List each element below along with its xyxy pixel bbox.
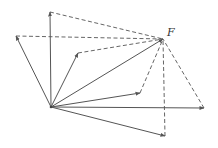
construction-lines [16, 12, 204, 136]
vector-upper-left [16, 36, 51, 107]
vector-lower-right [51, 107, 165, 136]
force-decomposition-diagram: F [0, 0, 218, 148]
vector-right-mid [51, 93, 140, 107]
origin-point [50, 106, 53, 109]
vector-horizontal [51, 107, 204, 108]
vector-vertical [50, 12, 51, 107]
dashed-line-right-mid [140, 39, 163, 93]
dashed-line-upper-mid [78, 39, 163, 53]
dashed-line-horizontal [163, 39, 204, 108]
dashed-line-upper-left [16, 36, 163, 39]
dashed-line-vertical [50, 12, 163, 39]
component-vectors [16, 12, 204, 136]
dashed-line-lower-right [163, 39, 165, 136]
resultant-label: F [166, 26, 175, 39]
